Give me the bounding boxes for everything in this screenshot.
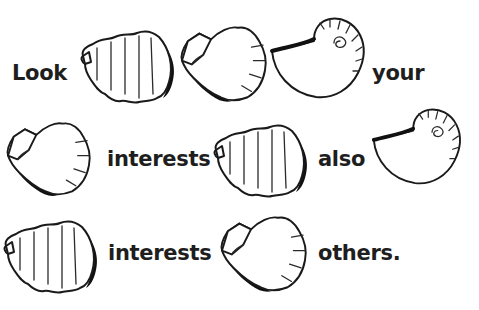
fan-scallop-shell-icon [3,118,95,198]
side-scallop-shell-icon [0,218,100,293]
fan-scallop-shell-icon [178,22,270,104]
nautilus-shell-icon [370,105,464,187]
side-scallop-shell-icon [210,122,310,197]
nautilus-shell-icon [268,15,368,100]
word-also: also [318,149,365,170]
word-interests: interests [107,149,210,170]
word-others: others. [318,243,400,264]
word-interests: interests [108,243,211,264]
side-scallop-shell-icon [77,28,177,103]
fan-scallop-shell-icon [218,212,310,294]
word-your: your [372,63,424,84]
word-look: Look [12,63,67,84]
